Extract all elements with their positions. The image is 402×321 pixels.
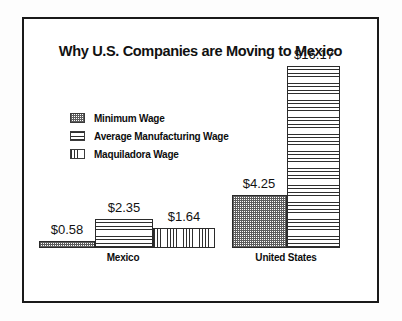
bar-value-united-states-minimum-wage: $4.25 [225,176,293,191]
bar-mexico-average-manufacturing-wage [95,219,153,248]
axis-group-label-mexico: Mexico [95,251,152,263]
bar-value-united-states-average-manufacturing-wage: $16.17 [279,47,349,62]
chart-frame: Why U.S. Companies are Moving to Mexico … [22,17,379,303]
bar-united-states-minimum-wage [232,195,287,248]
axis-group-label-united-states: United States [248,251,324,263]
bar-value-mexico-minimum-wage: $0.58 [33,222,101,237]
bar-value-mexico-average-manufacturing-wage: $2.35 [90,200,158,215]
plot-area: $0.58 $2.35 $1.64 Mexico $4.25 $16.17 Un… [24,19,381,305]
bar-mexico-minimum-wage [39,241,95,248]
bar-united-states-average-manufacturing-wage [287,66,340,248]
bar-value-mexico-maquiladora-wage: $1.64 [150,209,218,224]
bar-mexico-maquiladora-wage [153,228,215,248]
